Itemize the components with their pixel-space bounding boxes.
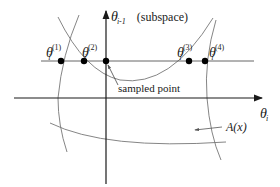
- diagram: θi-1 (subspace) θi θ(1)i θ(2)i θ(3)i θ(4…: [0, 0, 280, 187]
- label-theta-1-superscript: (1): [52, 43, 61, 52]
- subspace-annotation: (subspace): [137, 10, 188, 24]
- label-theta-4: θ(4)i: [209, 44, 227, 60]
- label-theta-3-superscript: (3): [183, 43, 192, 52]
- label-theta-4-superscript: (4): [215, 43, 224, 52]
- horizontal-axis-subscript: i: [266, 114, 268, 123]
- sampled-point-label: sampled point: [118, 83, 180, 94]
- region-label: A(x): [226, 121, 247, 133]
- label-theta-1: θ(1)i: [46, 44, 64, 60]
- region-pointer: [195, 127, 222, 130]
- label-theta-3: θ(3)i: [177, 44, 195, 60]
- sampled-point: [103, 58, 109, 64]
- point-theta-4: [202, 58, 208, 64]
- label-theta-2-superscript: (2): [88, 43, 97, 52]
- right-boundary-curve: [206, 20, 221, 160]
- sampled-point-pointer: [108, 65, 118, 85]
- vertical-axis-label: θi-1 (subspace): [111, 8, 188, 24]
- label-theta-2: θ(2)i: [82, 44, 100, 60]
- horizontal-axis-label: θi: [260, 105, 269, 121]
- lower-boundary-curve: [50, 123, 226, 144]
- vertical-axis-subscript: i-1: [117, 17, 126, 26]
